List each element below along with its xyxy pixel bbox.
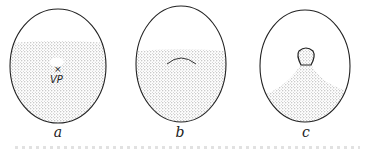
panel-label-c: c (296, 124, 316, 140)
panel-c-egg (260, 10, 352, 140)
embryo-stages-figure: × VP a b c (0, 0, 365, 150)
panel-b-egg (130, 6, 232, 140)
panel-label-a: a (48, 124, 68, 140)
knob-structure (298, 48, 314, 65)
panel-label-b: b (170, 124, 190, 140)
vegetal-pole-marker: × (54, 64, 62, 74)
vp-annotation: VP (50, 74, 63, 85)
cropped-caption-text (15, 146, 360, 149)
